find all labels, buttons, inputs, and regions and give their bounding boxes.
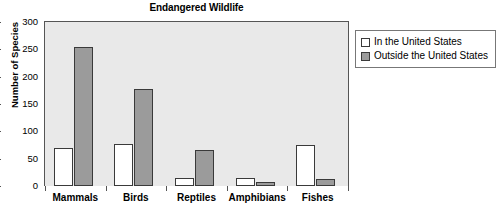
y-axis-tick-mark [0, 186, 1, 187]
x-axis-category-separator [166, 186, 167, 191]
bar-series-layer [45, 22, 348, 186]
white-square-swatch-icon [361, 38, 370, 47]
x-axis-category-separator [106, 186, 107, 191]
bar [134, 89, 153, 186]
y-axis-tick-label: 150 [1, 98, 45, 110]
y-axis-title-label: Number of Species [9, 22, 20, 108]
y-axis-tick-mark [0, 131, 1, 132]
legend-item-label: In the United States [374, 35, 462, 49]
bar [195, 150, 214, 186]
bar [236, 178, 255, 186]
x-axis-category-separator [227, 186, 228, 191]
bar [296, 145, 315, 186]
y-axis-tick-label: 250 [1, 43, 45, 55]
bar [74, 47, 93, 186]
y-axis-tick-mark [0, 159, 1, 160]
x-axis-end-tick [45, 186, 46, 191]
chart-legend: In the United States Outside the United … [355, 30, 496, 68]
x-axis-category-separator [287, 186, 288, 191]
plot-area: 050100150200250300 [45, 21, 349, 186]
chart-title: Endangered Wildlife [45, 2, 348, 14]
gray-square-swatch-icon [361, 52, 370, 61]
bar [54, 148, 73, 186]
y-axis-tick-label: 200 [1, 71, 45, 83]
bar [114, 144, 133, 186]
legend-item-outside-the-united-states[interactable]: Outside the United States [361, 49, 490, 63]
bar [175, 178, 194, 186]
y-axis-tick-mark [0, 104, 1, 105]
bar [316, 179, 335, 186]
y-axis-tick-label: 100 [1, 125, 45, 137]
x-axis-category-label: Fishes [273, 191, 363, 205]
y-axis-tick-label: 300 [1, 16, 45, 28]
x-axis-end-tick [348, 186, 349, 191]
y-axis-tick-mark [0, 77, 1, 78]
bar [256, 182, 275, 186]
legend-item-in-the-united-states[interactable]: In the United States [361, 35, 490, 49]
legend-item-label: Outside the United States [374, 49, 488, 63]
y-axis-tick-mark [0, 49, 1, 50]
y-axis-tick-label: 50 [1, 153, 45, 165]
y-axis-tick-mark [0, 22, 1, 23]
chart-figure: Endangered Wildlife Number of Species 05… [0, 0, 499, 211]
